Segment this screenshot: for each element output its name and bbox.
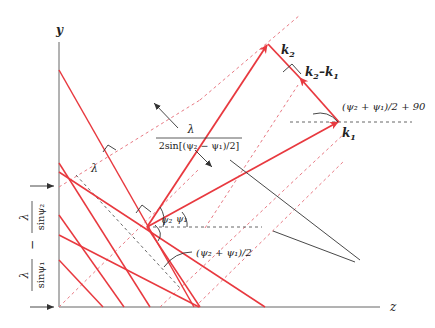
leader-long [230, 160, 360, 260]
annotation-lines [30, 103, 360, 307]
interference-diagram: y z [0, 0, 435, 328]
wavefronts [59, 70, 265, 307]
angle-plus-90-label: (ψ₂ + ψ₁)/2 + 90 [342, 101, 426, 112]
k1-label: k1 [342, 126, 356, 142]
spacing-numerator: λ [187, 123, 195, 136]
k2-label: k2 [281, 43, 295, 59]
svg-text:λ: λ [18, 272, 31, 280]
k2-minus-k1-vector-lower [300, 78, 339, 122]
lambda-small-label: λ [90, 162, 98, 175]
dashed-fringe-lines [59, 15, 345, 307]
k2-minus-k1-label: k2–k1 [305, 65, 339, 81]
half-sum-label: (ψ₂ + ψ₁)/2 [196, 247, 252, 258]
psi2-label: ψ₂ [161, 214, 172, 225]
spacing-arrow-down [195, 150, 212, 167]
psi1-label: ψ₁ [176, 213, 187, 224]
svg-text:−: − [25, 240, 39, 250]
z-axis-label: z [389, 300, 397, 314]
svg-text:sinψ₁: sinψ₁ [35, 262, 46, 289]
guide-dashes [76, 122, 412, 288]
labels: k2 k2–k1 k1 (ψ₂ + ψ₁)/2 + 90 λ 2sin[(ψ₂ … [18, 43, 426, 291]
angle-markers [103, 64, 338, 267]
svg-text:λ: λ [18, 214, 31, 222]
spacing-denominator: 2sin[(ψ₂ − ψ₁)/2] [159, 140, 240, 151]
y-axis-label: y [55, 23, 64, 37]
axes: y z [55, 23, 397, 314]
spacing-arrow-up [154, 103, 178, 128]
svg-text:sinψ₂: sinψ₂ [35, 204, 46, 231]
k2-vector [147, 45, 267, 227]
vertical-spacing-label: λ sinψ₁ − λ sinψ₂ [18, 201, 46, 291]
